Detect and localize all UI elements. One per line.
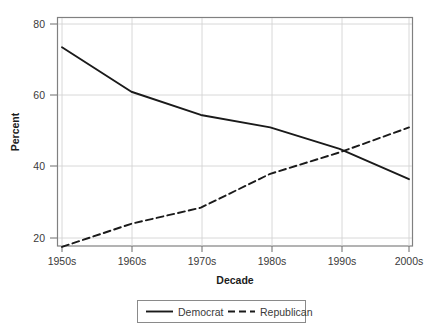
y-axis-ticks <box>50 24 57 238</box>
x-axis-title: Decade <box>216 274 254 286</box>
xtick-label-1970s: 1970s <box>188 255 217 267</box>
plot-area <box>58 18 413 247</box>
ytick-label-40: 40 <box>33 160 45 172</box>
ytick-label-20: 20 <box>33 232 45 244</box>
x-axis-ticks <box>62 246 409 252</box>
xtick-label-1980s: 1980s <box>258 255 287 267</box>
legend-label-republican: Republican <box>260 306 313 318</box>
y-axis-title: Percent <box>9 112 21 151</box>
line-chart: 80 60 40 20 Percent 1950s 1960s 1970s 19… <box>0 0 442 331</box>
xtick-label-1960s: 1960s <box>118 255 147 267</box>
ytick-label-60: 60 <box>33 89 45 101</box>
legend-label-democrat: Democrat <box>178 306 224 318</box>
xtick-label-1990s: 1990s <box>328 255 357 267</box>
chart-canvas: 80 60 40 20 Percent 1950s 1960s 1970s 19… <box>0 0 442 331</box>
legend: Democrat Republican <box>138 301 313 323</box>
xtick-label-1950s: 1950s <box>48 255 77 267</box>
ytick-label-80: 80 <box>33 18 45 30</box>
xtick-label-2000s: 2000s <box>395 255 424 267</box>
